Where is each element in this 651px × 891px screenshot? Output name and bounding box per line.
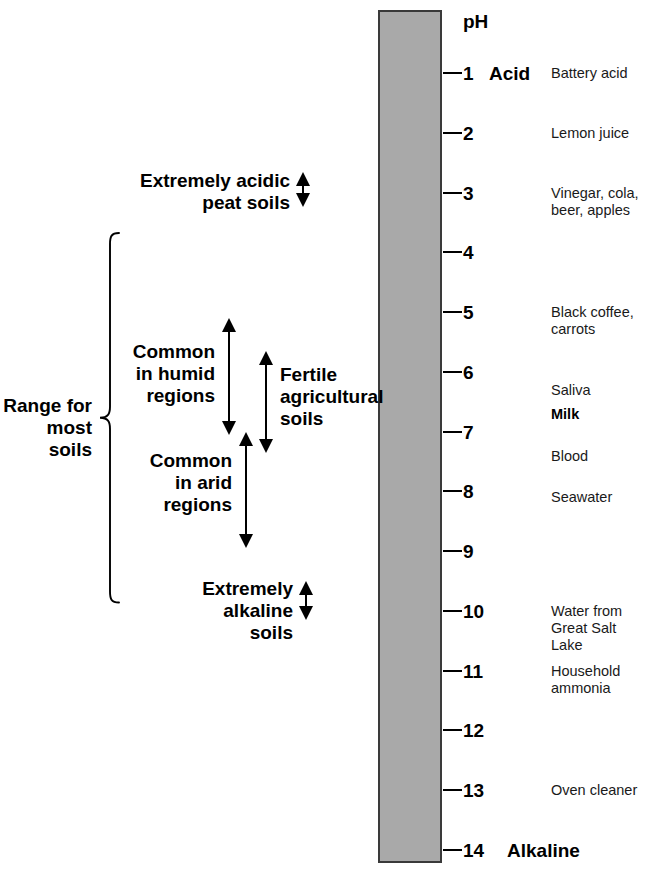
annotation-label-fertile-agricultural-soils: Fertileagriculturalsoils bbox=[280, 364, 400, 430]
tick-label-ph-8: 8 bbox=[463, 482, 497, 501]
ph-gradient-bar bbox=[378, 10, 442, 863]
arrow-head-down-icon bbox=[299, 606, 313, 620]
arrow-head-down-icon bbox=[296, 193, 310, 207]
substance-label-line: Seawater bbox=[551, 489, 651, 506]
tick-mark-ph-9 bbox=[443, 550, 462, 552]
arrow-head-up-icon bbox=[239, 432, 253, 446]
substance-label-blood: Blood bbox=[551, 448, 651, 465]
tick-mark-ph-5 bbox=[443, 311, 462, 313]
substance-label-line: Lemon juice bbox=[551, 125, 651, 142]
substance-label-lemon-juice: Lemon juice bbox=[551, 125, 651, 142]
arrow-head-down-icon bbox=[259, 439, 273, 453]
substance-label-line: Milk bbox=[551, 406, 651, 423]
tick-mark-ph-10 bbox=[443, 610, 462, 612]
tick-mark-ph-12 bbox=[443, 729, 462, 731]
annotation-label-line: alkaline bbox=[0, 600, 293, 622]
substance-label-household: Householdammonia bbox=[551, 663, 651, 697]
annotation-label-line: Fertile bbox=[280, 364, 400, 386]
annotation-label-extremely-acidic-peat-soils: Extremely acidicpeat soils bbox=[0, 170, 290, 214]
substance-label-milk: Milk bbox=[551, 406, 651, 423]
endpoint-label-acid: Acid bbox=[489, 64, 530, 83]
arrow-shaft bbox=[228, 323, 230, 430]
substance-label-water-from: Water fromGreat SaltLake bbox=[551, 603, 651, 654]
substance-label-line: beer, apples bbox=[551, 202, 651, 219]
arrow-head-up-icon bbox=[259, 351, 273, 365]
tick-label-ph-10: 10 bbox=[463, 602, 507, 621]
substance-label-battery-acid: Battery acid bbox=[551, 65, 651, 82]
tick-mark-ph-7 bbox=[443, 431, 462, 433]
tick-label-ph-5: 5 bbox=[463, 303, 497, 322]
tick-mark-ph-11 bbox=[443, 670, 462, 672]
tick-label-ph-7: 7 bbox=[463, 423, 497, 442]
tick-mark-ph-14 bbox=[443, 849, 462, 851]
arrow-head-up-icon bbox=[296, 172, 310, 186]
range-arrow-extremely-alkaline-soils bbox=[298, 581, 314, 620]
annotation-label-line: Extremely bbox=[0, 578, 293, 600]
bracket-label-line: most soils bbox=[0, 417, 92, 461]
range-arrow-common-in-arid-regions bbox=[238, 432, 254, 549]
annotation-label-line: Extremely acidic bbox=[0, 170, 290, 192]
substance-label-line: Household bbox=[551, 663, 651, 680]
substance-label-saliva: Saliva bbox=[551, 382, 651, 399]
tick-mark-ph-6 bbox=[443, 371, 462, 373]
tick-label-ph-4: 4 bbox=[463, 243, 497, 262]
arrow-head-up-icon bbox=[222, 318, 236, 332]
substance-label-line: Blood bbox=[551, 448, 651, 465]
substance-label-line: Saliva bbox=[551, 382, 651, 399]
substance-label-line: ammonia bbox=[551, 680, 651, 697]
substance-label-black-coffee: Black coffee,carrots bbox=[551, 304, 651, 338]
bracket-label-line: Range for bbox=[0, 395, 92, 417]
tick-mark-ph-1 bbox=[443, 72, 462, 74]
tick-label-ph-3: 3 bbox=[463, 184, 497, 203]
substance-label-line: carrots bbox=[551, 321, 651, 338]
arrow-head-down-icon bbox=[222, 421, 236, 435]
substance-label-line: Great Salt bbox=[551, 620, 651, 637]
annotation-label-line: agricultural bbox=[280, 386, 400, 408]
annotation-label-line: soils bbox=[0, 622, 293, 644]
substance-label-oven-cleaner: Oven cleaner bbox=[551, 782, 651, 799]
tick-label-ph-9: 9 bbox=[463, 542, 497, 561]
arrow-head-up-icon bbox=[299, 581, 313, 595]
tick-label-ph-2: 2 bbox=[463, 124, 497, 143]
substance-label-line: Oven cleaner bbox=[551, 782, 651, 799]
arrow-shaft bbox=[245, 437, 247, 544]
tick-mark-ph-8 bbox=[443, 490, 462, 492]
annotation-label-line: soils bbox=[280, 408, 400, 430]
ph-scale-figure: pH 1Acid234567891011121314Alkaline Batte… bbox=[0, 0, 651, 891]
tick-mark-ph-4 bbox=[443, 251, 462, 253]
tick-label-ph-13: 13 bbox=[463, 781, 507, 800]
range-arrow-common-in-humid-regions bbox=[221, 318, 237, 435]
tick-mark-ph-3 bbox=[443, 192, 462, 194]
arrow-head-down-icon bbox=[239, 534, 253, 548]
range-arrow-extremely-acidic-peat-soils bbox=[295, 172, 311, 208]
substance-label-seawater: Seawater bbox=[551, 489, 651, 506]
substance-label-line: Black coffee, bbox=[551, 304, 651, 321]
tick-mark-ph-13 bbox=[443, 789, 462, 791]
tick-label-ph-12: 12 bbox=[463, 721, 507, 740]
range-arrow-fertile-agricultural-soils bbox=[258, 351, 274, 453]
substance-label-line: Lake bbox=[551, 637, 651, 654]
substance-label-line: Vinegar, cola, bbox=[551, 185, 651, 202]
bracket-label-range-for-most-soils: Range formost soils bbox=[0, 395, 92, 461]
substance-label-line: Water from bbox=[551, 603, 651, 620]
annotation-label-line: peat soils bbox=[0, 192, 290, 214]
tick-label-ph-14: 14 bbox=[463, 841, 507, 860]
arrow-shaft bbox=[265, 356, 267, 448]
endpoint-label-alkaline: Alkaline bbox=[507, 841, 580, 860]
tick-mark-ph-2 bbox=[443, 132, 462, 134]
ph-header-label: pH bbox=[463, 12, 488, 31]
substance-label-line: Battery acid bbox=[551, 65, 651, 82]
range-for-most-soils-bracket bbox=[97, 231, 121, 605]
substance-label-vinegar-cola: Vinegar, cola,beer, apples bbox=[551, 185, 651, 219]
tick-label-ph-11: 11 bbox=[463, 662, 507, 681]
tick-label-ph-6: 6 bbox=[463, 363, 497, 382]
annotation-label-extremely-alkaline-soils: Extremelyalkalinesoils bbox=[0, 578, 293, 644]
